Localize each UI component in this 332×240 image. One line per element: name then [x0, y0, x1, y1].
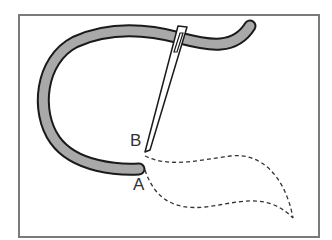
label-b: B: [130, 131, 141, 151]
stitch-diagram: [0, 0, 332, 240]
label-a: A: [133, 175, 144, 195]
dashed-stitch-path: [145, 156, 293, 218]
needle-icon: [145, 26, 187, 152]
